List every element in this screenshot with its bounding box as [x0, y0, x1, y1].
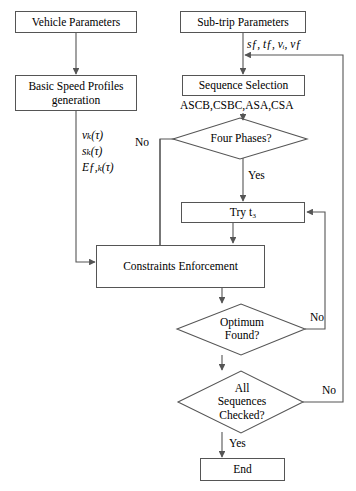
annotation-profile-var-e: Eƒ,ₖ(τ) — [82, 160, 114, 176]
node-sequence-selection[interactable]: Sequence Selection — [182, 75, 305, 96]
node-end[interactable]: End — [200, 458, 285, 481]
annotation-subtrip-vars: sƒ, tƒ, vᵢ, vƒ — [247, 37, 301, 53]
annotation-profile-var-v: vₖ(τ) — [82, 128, 103, 144]
edge-label-all-sequences-no: No — [322, 384, 336, 396]
edge-label-four-phases-no: No — [135, 136, 149, 148]
node-basic-speed-profiles-label: Basic Speed Profiles generation — [22, 79, 130, 107]
node-vehicle-parameters-label: Vehicle Parameters — [32, 15, 120, 29]
edge-label-all-sequences-yes: Yes — [229, 437, 246, 449]
annotation-sequence-list: ASCB,CSBC,ASA,CSA — [180, 98, 293, 114]
shape-optimum-diamond — [177, 304, 305, 355]
node-constraints-enforcement-label: Constraints Enforcement — [123, 259, 238, 273]
shape-allseq-diamond — [178, 371, 303, 433]
node-constraints-enforcement[interactable]: Constraints Enforcement — [96, 245, 265, 288]
node-basic-speed-profiles[interactable]: Basic Speed Profiles generation — [15, 75, 137, 111]
annotation-profile-var-s: sₖ(τ) — [82, 144, 102, 160]
edge-label-four-phases-yes: Yes — [248, 169, 265, 181]
edge-fourphases-no — [160, 139, 175, 252]
node-try-t3[interactable]: Try t₃ — [181, 202, 305, 223]
node-sequence-selection-label: Sequence Selection — [199, 78, 289, 92]
edge-label-optimum-no: No — [310, 311, 324, 323]
shape-fourphases-diamond — [173, 118, 307, 159]
node-end-label: End — [233, 462, 252, 476]
node-try-t3-label: Try t₃ — [230, 205, 256, 219]
node-subtrip-parameters-label: Sub-trip Parameters — [197, 15, 289, 29]
node-vehicle-parameters[interactable]: Vehicle Parameters — [15, 11, 137, 33]
flowchart-canvas: Vehicle Parameters Sub-trip Parameters B… — [0, 0, 356, 491]
node-subtrip-parameters[interactable]: Sub-trip Parameters — [180, 11, 306, 33]
